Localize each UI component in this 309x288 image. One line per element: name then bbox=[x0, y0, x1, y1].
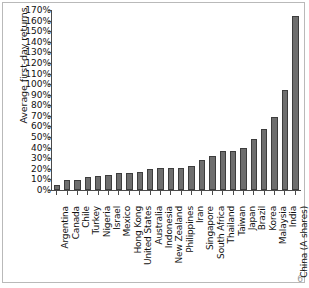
x-axis-tick-label: Chile bbox=[81, 206, 91, 228]
x-axis-tick-mark bbox=[67, 191, 68, 195]
y-axis-tick-label: 60% bbox=[3, 121, 51, 131]
x-axis-tick-mark bbox=[108, 191, 109, 195]
x-axis-tick-label: Brazil bbox=[257, 206, 267, 230]
y-axis-tick-label: 0% bbox=[3, 185, 51, 195]
x-axis-tick-mark bbox=[274, 191, 275, 195]
x-axis-tick-label: United States bbox=[143, 206, 153, 265]
x-axis-tick-label: China (A shares) bbox=[299, 206, 309, 278]
x-axis-tick-label: Taiwan bbox=[237, 206, 247, 236]
bar bbox=[74, 180, 80, 190]
y-axis-tick-label: 50% bbox=[3, 132, 51, 142]
x-axis-tick-mark bbox=[87, 191, 88, 195]
bar bbox=[105, 175, 111, 190]
x-axis-tick-mark bbox=[181, 191, 182, 195]
bar bbox=[209, 156, 215, 190]
bar bbox=[54, 185, 60, 190]
x-axis-tick-label: South Africa bbox=[216, 206, 226, 259]
x-axis-tick-mark bbox=[295, 191, 296, 195]
x-axis-tick-mark bbox=[139, 191, 140, 195]
y-axis-tick-label: 70% bbox=[3, 111, 51, 121]
bar bbox=[292, 16, 298, 190]
x-axis-tick-label: Nigeria bbox=[102, 206, 112, 237]
bar bbox=[168, 168, 174, 190]
y-axis-tick-label: 80% bbox=[3, 100, 51, 110]
bar bbox=[95, 176, 101, 190]
x-axis-tick-mark bbox=[129, 191, 130, 195]
x-axis-tick-mark bbox=[264, 191, 265, 195]
chart-figure: Average first-day returns 0%10%20%30%40%… bbox=[0, 0, 309, 288]
x-axis-tick-label: Mexico bbox=[122, 206, 132, 237]
bar bbox=[240, 148, 246, 190]
bar bbox=[137, 172, 143, 190]
x-axis-tick-mark bbox=[98, 191, 99, 195]
x-axis-tick-mark bbox=[284, 191, 285, 195]
x-axis-tick-label: New Zealand bbox=[174, 206, 184, 264]
x-axis-tick-label: Turkey bbox=[91, 206, 101, 234]
bar bbox=[230, 151, 236, 190]
x-axis-tick-label: Indonesia bbox=[164, 206, 174, 248]
bar bbox=[126, 173, 132, 190]
bar bbox=[85, 177, 91, 190]
x-axis-tick-mark bbox=[212, 191, 213, 195]
y-axis-tick-label: 40% bbox=[3, 143, 51, 153]
bar bbox=[188, 166, 194, 190]
x-axis-tick-label: Korea bbox=[268, 206, 278, 231]
bar bbox=[271, 117, 277, 190]
bar bbox=[282, 90, 288, 190]
x-axis-tick-label: Philippines bbox=[185, 206, 195, 253]
y-axis-tick-label: 120% bbox=[3, 58, 51, 68]
x-axis-tick-mark bbox=[253, 191, 254, 195]
y-axis-tick-label: 10% bbox=[3, 174, 51, 184]
y-axis-tick-label: 110% bbox=[3, 69, 51, 79]
x-axis-tick-label: Canada bbox=[71, 206, 81, 239]
x-axis-tick-label: Thailand bbox=[226, 206, 236, 243]
x-axis-tick-mark bbox=[191, 191, 192, 195]
y-axis-tick-label: 170% bbox=[3, 5, 51, 15]
bar bbox=[64, 180, 70, 190]
x-axis-tick-mark bbox=[160, 191, 161, 195]
y-axis-tick-label: 140% bbox=[3, 37, 51, 47]
page-number: 6 bbox=[297, 274, 303, 284]
x-axis-tick-label: India bbox=[288, 206, 298, 227]
y-axis-tick-label: 100% bbox=[3, 79, 51, 89]
bar bbox=[157, 168, 163, 190]
x-axis-tick-mark bbox=[233, 191, 234, 195]
x-axis-tick-mark bbox=[222, 191, 223, 195]
plot-area: 0%10%20%30%40%50%60%70%80%90%100%110%120… bbox=[51, 10, 301, 191]
bar bbox=[147, 169, 153, 190]
x-axis-tick-mark bbox=[243, 191, 244, 195]
x-axis-tick-label: Australia bbox=[154, 206, 164, 244]
bar bbox=[251, 139, 257, 190]
bar bbox=[178, 168, 184, 190]
bar bbox=[116, 173, 122, 190]
x-axis-tick-label: Singapore bbox=[205, 206, 215, 250]
x-axis-tick-mark bbox=[77, 191, 78, 195]
x-axis-tick-mark bbox=[150, 191, 151, 195]
x-axis-tick-label: Argentina bbox=[60, 206, 70, 249]
y-axis-tick-label: 90% bbox=[3, 90, 51, 100]
y-axis-tick-mark bbox=[48, 190, 52, 191]
y-axis-tick-label: 160% bbox=[3, 16, 51, 26]
bar bbox=[261, 129, 267, 190]
x-axis-tick-mark bbox=[201, 191, 202, 195]
x-axis-tick-mark bbox=[118, 191, 119, 195]
y-axis-tick-label: 130% bbox=[3, 47, 51, 57]
y-axis-tick-label: 150% bbox=[3, 26, 51, 36]
x-axis-tick-label: Iran bbox=[195, 206, 205, 223]
bar bbox=[199, 160, 205, 190]
x-axis-tick-mark bbox=[170, 191, 171, 195]
x-axis-tick-label: Israel bbox=[112, 206, 122, 230]
x-axis-tick-label: Japan bbox=[247, 206, 257, 230]
x-axis-tick-label: Hong Kong bbox=[133, 206, 143, 254]
y-axis-tick-label: 30% bbox=[3, 153, 51, 163]
y-axis-tick-label: 20% bbox=[3, 164, 51, 174]
bar-series bbox=[52, 10, 301, 190]
x-axis-tick-mark bbox=[56, 191, 57, 195]
bar bbox=[220, 151, 226, 190]
x-axis-tick-label: Malaysia bbox=[278, 206, 288, 244]
